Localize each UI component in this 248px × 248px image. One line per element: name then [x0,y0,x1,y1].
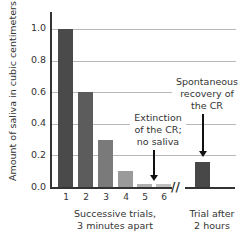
y-axis-line [50,12,52,188]
arrow-recovery-icon [202,114,204,152]
bar-trial-2 [78,92,93,187]
x-group-label-after-2-hours: Trial after 2 hours [180,208,244,232]
x-tick-2: 2 [80,192,92,202]
y-tick-0-0: 0.0 [20,181,46,192]
x-axis-line-2 [185,187,235,189]
arrow-extinction-icon [153,150,155,176]
bar-trial-1 [58,29,73,187]
y-tick-0-2: 0.2 [20,149,46,160]
x-tick-1: 1 [60,192,72,202]
y-tick-0-8: 0.8 [20,54,46,65]
y-axis-label: Amount of saliva in cubic centimeters [7,31,19,181]
bar-trial-after-2-hours [195,162,210,187]
y-tick-0-6: 0.6 [20,86,46,97]
bar-trial-4 [118,171,133,187]
bar-trial-3 [98,140,113,187]
annotation-extinction: Extinction of the CR; no saliva [130,112,186,148]
x-tick-6: 6 [158,192,170,202]
x-axis-line [50,187,172,189]
x-group-label-successive: Successive trials, 3 minutes apart [60,208,170,232]
gridline [51,61,236,62]
axis-break: // [171,180,180,194]
y-tick-0-4: 0.4 [20,117,46,128]
x-tick-4: 4 [120,192,132,202]
annotation-spontaneous-recovery: Spontaneous recovery of the CR [172,76,242,112]
y-tick-1-0: 1.0 [20,22,46,33]
x-tick-5: 5 [139,192,151,202]
gridline [51,29,236,30]
x-tick-3: 3 [100,192,112,202]
